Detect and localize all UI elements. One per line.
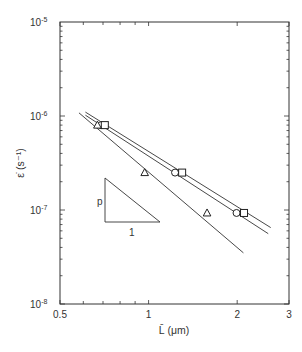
circle-marker <box>172 169 179 176</box>
lower-fit-line <box>79 113 243 253</box>
slope-triangle: p 1 <box>97 178 160 238</box>
triangle-marker <box>141 169 149 176</box>
slope-label-1: 1 <box>129 227 135 238</box>
square-marker <box>179 169 186 176</box>
y-tick-label: 10-5 <box>30 16 47 28</box>
y-tick-label: 10-8 <box>30 298 47 310</box>
x-tick-label: 1 <box>146 309 152 320</box>
x-tick-label: 2 <box>234 309 240 320</box>
square-marker <box>101 122 108 129</box>
x-tick-label: 0.5 <box>53 309 67 320</box>
plot-frame <box>60 22 289 304</box>
triangle-marker <box>203 209 211 216</box>
y-tick-labels: 10-510-610-710-8 <box>30 16 47 310</box>
x-tick-labels: 0.5123 <box>53 309 292 320</box>
strain-rate-vs-length-chart: 0.5123 10-510-610-710-8 p 1 ε̇ (s⁻¹) L̄ … <box>0 0 302 352</box>
y-tick-label: 10-7 <box>30 204 47 216</box>
fit-lines <box>79 112 271 253</box>
y-axis-label: ε̇ (s⁻¹) <box>14 148 26 177</box>
y-tick-label: 10-6 <box>30 110 47 122</box>
circle-marker <box>233 209 240 216</box>
slope-label-p: p <box>97 196 103 207</box>
x-tick-label: 3 <box>286 309 292 320</box>
x-axis-label: L̄ (μm) <box>159 324 190 336</box>
axis-ticks <box>60 22 289 304</box>
square-marker <box>241 209 248 216</box>
